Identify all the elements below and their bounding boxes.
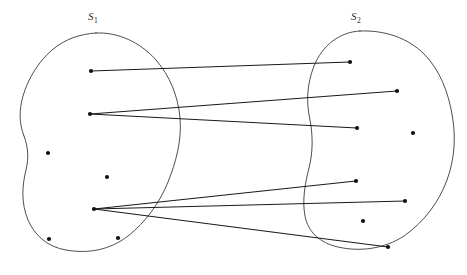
edges-group xyxy=(90,62,405,247)
label-s2: S2 xyxy=(351,10,361,25)
points-group xyxy=(46,60,415,249)
set-element-point xyxy=(105,175,109,179)
set-element-point xyxy=(355,126,359,130)
set-element-point xyxy=(88,112,92,116)
set-element-point xyxy=(116,236,120,240)
set-element-point xyxy=(361,219,365,223)
diagram-canvas: S1S2 xyxy=(0,0,467,275)
mapping-edge xyxy=(90,91,397,114)
set-element-point xyxy=(47,237,51,241)
mapping-edge xyxy=(91,62,350,71)
set-element-point xyxy=(411,131,415,135)
set-element-point xyxy=(386,245,390,249)
set-labels-group: S1S2 xyxy=(88,10,361,25)
set-element-point xyxy=(89,69,93,73)
mapping-edge xyxy=(94,201,405,209)
set-outlines-group xyxy=(20,31,454,252)
set-element-point xyxy=(92,207,96,211)
label-s1: S1 xyxy=(88,10,98,25)
mapping-edge xyxy=(94,209,388,247)
set-outline-s2 xyxy=(304,31,455,249)
set-mapping-diagram: S1S2 xyxy=(0,0,467,275)
set-element-point xyxy=(354,179,358,183)
set-element-point xyxy=(46,151,50,155)
mapping-edge xyxy=(90,114,357,128)
set-element-point xyxy=(403,199,407,203)
set-element-point xyxy=(395,89,399,93)
set-element-point xyxy=(348,60,352,64)
set-outline-s1 xyxy=(20,33,180,252)
mapping-edge xyxy=(94,181,356,209)
